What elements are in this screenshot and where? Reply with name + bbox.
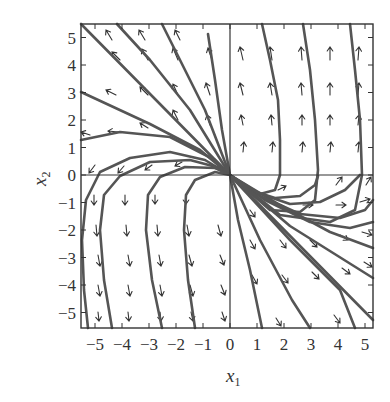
- x2-tick-label: 2: [68, 111, 77, 130]
- direction-arrow-icon: [97, 285, 103, 296]
- direction-arrow-icon: [327, 47, 333, 60]
- direction-arrow-icon: [174, 30, 180, 40]
- trajectory-curves: [81, 24, 373, 328]
- x1-tick-label: 3: [307, 335, 316, 354]
- direction-arrow-icon: [239, 115, 244, 125]
- direction-arrow-icon: [221, 312, 226, 321]
- direction-arrow-icon: [327, 115, 333, 125]
- direction-arrow-icon: [118, 166, 124, 173]
- direction-arrow-icon: [238, 47, 243, 60]
- direction-arrow-icon: [175, 162, 182, 167]
- direction-arrow-icon: [342, 268, 350, 274]
- x1-tick-label: −4: [113, 335, 132, 354]
- direction-field: [81, 30, 372, 326]
- trajectory-curve: [81, 132, 373, 248]
- direction-arrow-icon: [336, 177, 342, 185]
- direction-arrow-icon: [152, 195, 158, 204]
- direction-arrow-icon: [280, 240, 286, 248]
- direction-arrow-icon: [300, 142, 306, 152]
- x1-tick-label: 5: [361, 335, 370, 354]
- x2-tick-label: 3: [68, 84, 77, 103]
- x1-tick-labels: −5−4−3−2−1012345: [86, 335, 369, 354]
- direction-arrow-icon: [145, 165, 152, 170]
- direction-arrow-icon: [217, 225, 222, 236]
- x2-tick-label: 1: [68, 139, 77, 158]
- direction-arrow-icon: [328, 142, 334, 152]
- direction-arrow-icon: [299, 83, 305, 95]
- x2-tick-label: −2: [58, 221, 76, 240]
- direction-arrow-icon: [299, 115, 305, 125]
- direction-arrow-icon: [299, 47, 305, 60]
- x2-tick-label: 4: [68, 56, 77, 75]
- direction-arrow-icon: [106, 30, 112, 40]
- direction-arrow-icon: [366, 177, 371, 185]
- x2-tick-label: −5: [58, 304, 76, 323]
- direction-arrow-icon: [159, 285, 165, 296]
- x1-tick-label: 0: [226, 335, 235, 354]
- x1-tick-label: 4: [334, 335, 343, 354]
- direction-arrow-icon: [96, 312, 102, 321]
- direction-arrow-icon: [81, 131, 90, 136]
- direction-arrow-icon: [188, 255, 193, 266]
- direction-arrow-icon: [124, 225, 130, 236]
- trajectory-curve: [82, 152, 373, 328]
- direction-arrow-icon: [220, 255, 225, 265]
- direction-arrow-icon: [364, 262, 372, 267]
- x2-tick-label: −3: [58, 249, 76, 268]
- x2-tick-labels: 543210−1−2−3−4−5: [58, 29, 77, 323]
- direction-arrow-icon: [106, 89, 116, 95]
- x1-tick-label: −2: [167, 335, 185, 354]
- trajectory-curve: [117, 24, 362, 222]
- trajectory-curve: [230, 175, 355, 328]
- direction-arrow-icon: [205, 83, 210, 95]
- x2-tick-label: −4: [58, 276, 77, 295]
- direction-arrow-icon: [312, 272, 319, 279]
- x1-axis-label: x1: [225, 365, 240, 389]
- direction-arrow-icon: [241, 142, 247, 152]
- direction-arrow-icon: [126, 312, 132, 321]
- direction-arrow-icon: [334, 315, 340, 323]
- x1-tick-label: 1: [253, 335, 262, 354]
- direction-arrow-icon: [238, 83, 243, 95]
- direction-arrow-icon: [122, 195, 128, 205]
- direction-arrow-icon: [139, 30, 145, 40]
- direction-arrow-icon: [221, 285, 226, 295]
- x2-axis-label: x2: [29, 172, 53, 187]
- direction-arrow-icon: [94, 225, 100, 236]
- direction-arrow-icon: [268, 83, 274, 95]
- direction-arrow-icon: [250, 210, 255, 217]
- direction-arrow-icon: [336, 202, 346, 208]
- direction-arrow-icon: [250, 240, 256, 249]
- direction-arrow-icon: [89, 165, 95, 173]
- direction-arrow-icon: [356, 47, 362, 60]
- x1-tick-label: −5: [86, 335, 104, 354]
- x2-tick-label: 0: [68, 166, 77, 185]
- direction-arrow-icon: [127, 255, 133, 266]
- direction-arrow-icon: [158, 255, 164, 266]
- trajectory-curve: [81, 92, 373, 278]
- phase-portrait-figure: −5−4−3−2−1012345 543210−1−2−3−4−5 x1 x2: [0, 0, 390, 402]
- x1-tick-label: −1: [194, 335, 212, 354]
- x1-tick-label: −3: [140, 335, 158, 354]
- direction-arrow-icon: [362, 231, 372, 236]
- x1-tick-label: 2: [280, 335, 289, 354]
- direction-arrow-icon: [127, 285, 133, 296]
- x2-tick-label: −1: [58, 194, 76, 213]
- trajectory-curve: [100, 160, 373, 328]
- direction-arrow-icon: [276, 318, 281, 326]
- direction-arrow-icon: [269, 115, 275, 125]
- x2-tick-label: 5: [68, 29, 77, 48]
- direction-arrow-icon: [270, 142, 276, 152]
- direction-arrow-icon: [155, 225, 161, 236]
- direction-arrow-icon: [91, 195, 97, 205]
- direction-arrow-icon: [186, 225, 192, 236]
- direction-arrow-icon: [278, 185, 286, 190]
- direction-arrow-icon: [327, 83, 333, 95]
